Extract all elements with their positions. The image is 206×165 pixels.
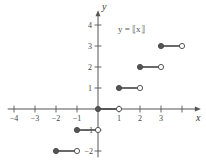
chart-title: y = ⟦x⟧ (118, 24, 145, 34)
step-segment (116, 85, 142, 90)
open-endpoint (179, 43, 184, 48)
open-endpoint (116, 106, 121, 111)
step-segment (53, 148, 79, 153)
x-tick-label: −4 (10, 114, 19, 123)
x-tick-label: 2 (138, 114, 142, 123)
step-segment (137, 64, 163, 69)
step-function-chart: −4−3−2−1123−2−11234 y = ⟦x⟧ x y (0, 0, 206, 165)
open-endpoint (74, 148, 79, 153)
y-axis-label: y (101, 1, 107, 12)
closed-endpoint (53, 148, 58, 153)
x-axis-arrow-icon (195, 107, 201, 112)
x-tick-label: −1 (73, 114, 82, 123)
x-axis-label: x (195, 112, 201, 123)
y-tick-label: 4 (88, 21, 92, 30)
closed-endpoint (158, 43, 163, 48)
closed-endpoint (95, 106, 100, 111)
x-tick-label: −2 (52, 114, 61, 123)
x-tick-label: 3 (159, 114, 163, 123)
open-endpoint (137, 85, 142, 90)
closed-endpoint (137, 64, 142, 69)
open-endpoint (95, 127, 100, 132)
segments (53, 43, 184, 153)
x-tick-label: 1 (117, 114, 121, 123)
y-tick-label: 3 (88, 42, 92, 51)
open-endpoint (158, 64, 163, 69)
closed-endpoint (116, 85, 121, 90)
y-axis-arrow-icon (96, 10, 101, 16)
ticks: −4−3−2−1123−2−11234 (10, 21, 182, 156)
x-tick-label: −3 (31, 114, 40, 123)
step-segment (95, 106, 121, 111)
y-tick-label: 2 (88, 63, 92, 72)
step-segment (158, 43, 184, 48)
closed-endpoint (74, 127, 79, 132)
y-tick-label: −2 (84, 147, 93, 156)
axes (8, 10, 201, 157)
y-tick-label: 1 (88, 84, 92, 93)
